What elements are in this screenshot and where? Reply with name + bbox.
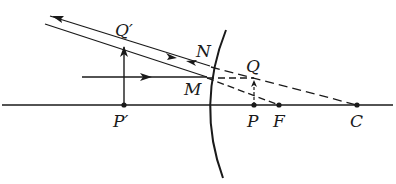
dashed-n-to-c [211, 67, 357, 105]
label-q-prime: Q′ [115, 22, 133, 39]
label-p: P [247, 113, 258, 130]
point-p [251, 102, 256, 107]
label-f: F [273, 113, 285, 130]
label-c: C [350, 113, 363, 130]
point-c [354, 102, 359, 107]
label-m: M [184, 81, 201, 98]
label-q: Q [246, 58, 260, 75]
point-p-prime [121, 102, 126, 107]
point-f [276, 102, 281, 107]
image-arrowhead-icon [251, 80, 257, 87]
label-n: N [196, 43, 211, 60]
mirror-surface [210, 30, 226, 178]
label-p-prime: P′ [113, 113, 128, 130]
